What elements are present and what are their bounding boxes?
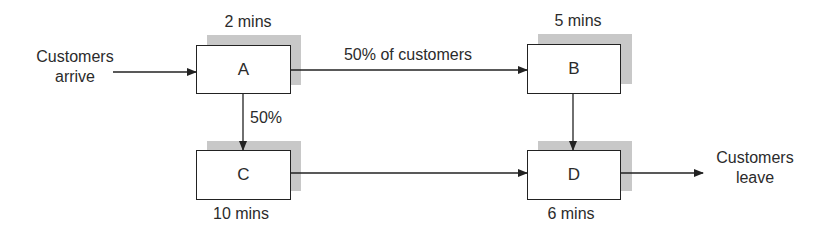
node-d-time: 6 mins: [526, 204, 616, 224]
node-d-label: D: [568, 165, 580, 185]
node-c-time: 10 mins: [196, 204, 286, 224]
edge-a-b-label: 50% of customers: [328, 45, 488, 65]
node-b-time: 5 mins: [536, 11, 620, 31]
node-a-label: A: [238, 60, 249, 80]
node-a-time: 2 mins: [206, 12, 290, 32]
node-c: C: [196, 150, 291, 200]
start-label: Customers arrive: [25, 47, 125, 87]
end-label: Customers leave: [705, 148, 805, 188]
node-c-label: C: [237, 165, 249, 185]
node-a: A: [196, 45, 291, 94]
node-b-label: B: [568, 59, 579, 79]
node-b: B: [527, 44, 621, 94]
edge-a-c-label: 50%: [250, 108, 290, 128]
connectors: [0, 0, 830, 232]
node-d: D: [527, 150, 621, 200]
